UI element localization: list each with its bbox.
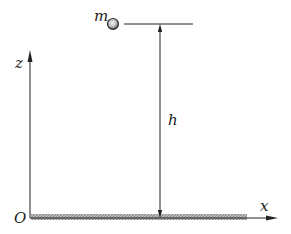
diagram-canvas: m h z x O [0, 0, 291, 234]
origin-label: O [14, 209, 26, 227]
mass-ball [108, 19, 119, 30]
z-axis-label: z [14, 54, 23, 72]
ground [31, 214, 247, 220]
x-axis-label: x [260, 197, 269, 215]
mass-label: m [94, 7, 108, 25]
arrow-up-icon [158, 24, 162, 32]
z-axis [28, 50, 33, 218]
z-axis-arrow-icon [28, 50, 33, 62]
x-axis-arrow-icon [266, 216, 278, 221]
height-label: h [168, 111, 178, 129]
height-dimension [158, 24, 162, 218]
